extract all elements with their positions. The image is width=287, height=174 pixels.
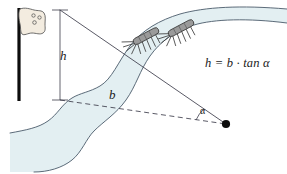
figure-container: h b α h = b · tan α (0, 0, 287, 174)
label-base: b (109, 88, 116, 101)
label-angle: α (200, 106, 205, 116)
label-height: h (60, 49, 67, 62)
observer-point (222, 120, 230, 128)
diagram-canvas (0, 0, 287, 174)
flag-shape (19, 8, 45, 35)
formula-expression: h = b · tan α (205, 57, 270, 70)
flag (19, 8, 45, 35)
